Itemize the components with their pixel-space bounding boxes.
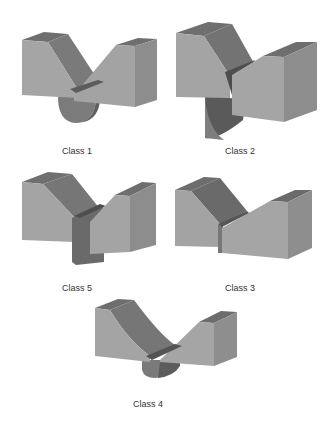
- class3-block: [175, 177, 312, 259]
- class4-block: [95, 299, 237, 378]
- v-notch-diagram: [0, 0, 331, 432]
- class2-block: [176, 22, 317, 140]
- class1-label: Class 1: [62, 146, 92, 156]
- class1-block: [22, 32, 157, 123]
- class4-label: Class 4: [133, 399, 163, 409]
- class2-label: Class 2: [225, 146, 255, 156]
- class3-label: Class 3: [225, 283, 255, 293]
- class5-block: [22, 172, 156, 265]
- class5-label: Class 5: [62, 283, 92, 293]
